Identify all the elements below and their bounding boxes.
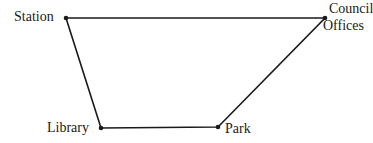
park-label: Park (225, 121, 251, 137)
park-node (216, 125, 221, 130)
station-node (64, 16, 69, 21)
route-path (66, 18, 325, 128)
council-label-line1: Council (329, 1, 373, 17)
station-label: Station (14, 9, 54, 25)
council-label-line2: Offices (323, 18, 364, 34)
library-label: Library (47, 120, 89, 136)
library-node (99, 126, 104, 131)
